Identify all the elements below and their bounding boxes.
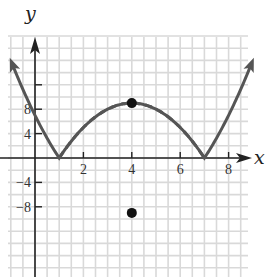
y-tick-label: −4 [16,175,31,190]
vertex-point [127,208,137,218]
y-tick-label: −8 [16,200,31,215]
y-tick-label: 4 [24,127,31,142]
function-graph: 2468−8−448 x y [0,0,270,277]
x-tick-label: 4 [128,162,135,177]
x-axis-label: x [254,146,265,168]
x-tick-label: 8 [225,162,232,177]
x-tick-label: 6 [177,162,184,177]
vertex-point [127,98,137,108]
x-tick-label: 2 [80,162,87,177]
grid-lines [8,36,248,277]
y-axis-label: y [24,2,36,24]
